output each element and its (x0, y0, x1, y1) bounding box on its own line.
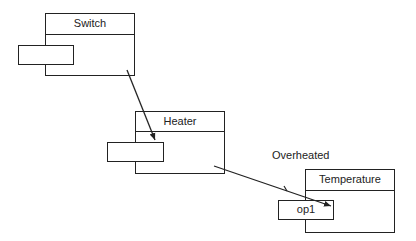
connection-heater-temperature[interactable] (214, 166, 331, 206)
connection-switch-heater[interactable] (127, 70, 155, 140)
connections-layer (0, 0, 416, 241)
